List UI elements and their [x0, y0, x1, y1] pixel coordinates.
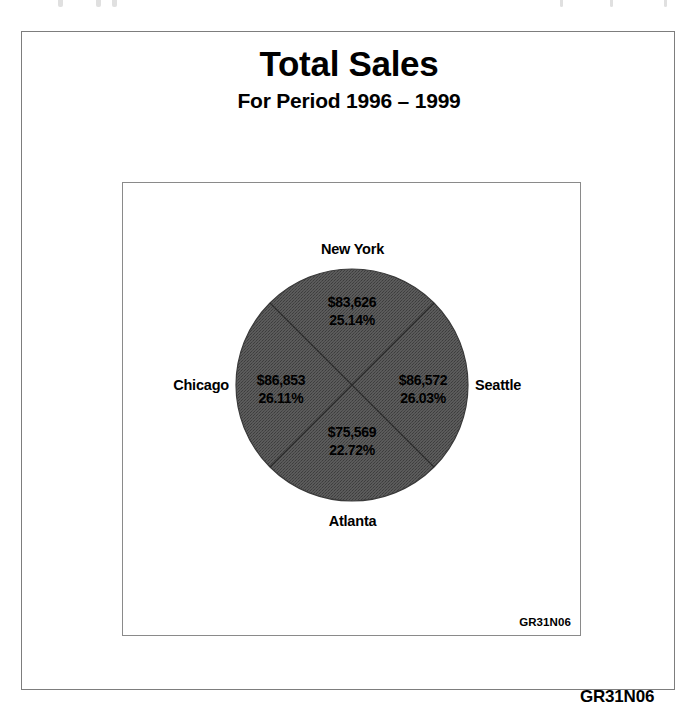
- pie-slice-value-atlanta: $75,569 22.72%: [275, 423, 429, 460]
- scan-artifact-strip: [0, 0, 696, 14]
- pie-category-label-seattle: Seattle: [475, 377, 575, 393]
- slice-value-atlanta: $75,569: [275, 423, 429, 441]
- figure-outer-frame: Total Sales For Period 1996 – 1999: [21, 31, 675, 690]
- figure-code-main: GR31N06: [580, 687, 654, 707]
- plot-inner-frame: New York Seattle Atlanta Chicago $83,626…: [122, 182, 581, 636]
- pie-slice-value-new-york: $83,626 25.14%: [275, 293, 429, 330]
- slice-value-seattle: $86,572: [363, 371, 483, 389]
- slice-value-chicago: $86,853: [221, 371, 341, 389]
- slice-percent-atlanta: 22.72%: [275, 441, 429, 459]
- pie-category-label-atlanta: Atlanta: [123, 513, 582, 529]
- pie-category-label-new-york: New York: [123, 241, 582, 257]
- figure-code-plot: GR31N06: [519, 616, 571, 628]
- slice-percent-seattle: 26.03%: [363, 389, 483, 407]
- pie-slice-value-seattle: $86,572 26.03%: [363, 371, 483, 408]
- page-subtitle: For Period 1996 – 1999: [22, 90, 676, 111]
- page-title: Total Sales: [22, 46, 676, 81]
- title-block: Total Sales For Period 1996 – 1999: [22, 46, 676, 111]
- pie-slice-value-chicago: $86,853 26.11%: [221, 371, 341, 408]
- slice-percent-chicago: 26.11%: [221, 389, 341, 407]
- slice-value-new-york: $83,626: [275, 293, 429, 311]
- pie-category-label-chicago: Chicago: [131, 377, 229, 393]
- slice-percent-new-york: 25.14%: [275, 311, 429, 329]
- pie-chart: New York Seattle Atlanta Chicago $83,626…: [123, 183, 582, 637]
